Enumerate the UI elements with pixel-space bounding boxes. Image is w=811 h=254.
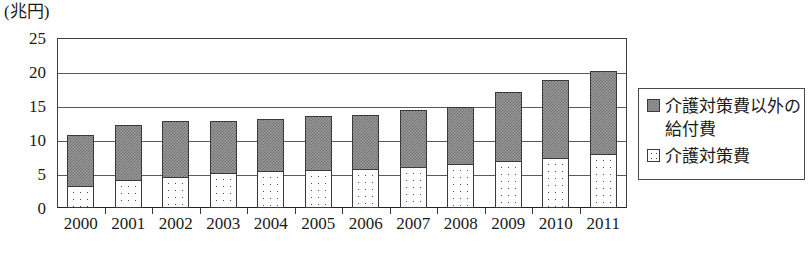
dotted-swatch-icon <box>647 149 660 162</box>
bar-segment-other-benefits[interactable] <box>162 121 189 178</box>
x-tick-label: 2010 <box>539 213 573 235</box>
bars-layer <box>57 38 627 208</box>
y-tick-label: 5 <box>38 166 47 183</box>
x-tick-label: 2009 <box>491 213 525 235</box>
y-tick-label: 15 <box>29 98 46 115</box>
legend-item-care-measures[interactable]: 介護対策費 <box>647 145 750 168</box>
bar-segment-care-measures[interactable] <box>115 180 142 208</box>
x-tick-label: 2004 <box>254 213 288 235</box>
bar-segment-other-benefits[interactable] <box>495 92 522 162</box>
gray-checker-swatch-icon <box>647 99 660 112</box>
x-tick-label: 2006 <box>349 213 383 235</box>
x-tick-label: 2005 <box>301 213 335 235</box>
y-tick-label: 20 <box>29 64 46 81</box>
y-tick-label: 10 <box>29 132 46 149</box>
bar-segment-care-measures[interactable] <box>590 154 617 208</box>
bar-segment-other-benefits[interactable] <box>590 71 617 156</box>
bar-segment-other-benefits[interactable] <box>447 107 474 165</box>
bar-segment-care-measures[interactable] <box>447 164 474 208</box>
bar-segment-other-benefits[interactable] <box>352 115 379 170</box>
bar-segment-care-measures[interactable] <box>67 186 94 208</box>
legend-item-label: 介護対策費以外の給付費 <box>665 95 804 141</box>
bar-segment-other-benefits[interactable] <box>210 121 237 174</box>
x-tick-label: 2007 <box>396 213 430 235</box>
legend-item-label: 介護対策費 <box>665 145 750 168</box>
bar-segment-other-benefits[interactable] <box>115 125 142 181</box>
bar-segment-other-benefits[interactable] <box>400 110 427 167</box>
bar-segment-care-measures[interactable] <box>257 171 284 208</box>
x-tick-label: 2002 <box>159 213 193 235</box>
x-tick-label: 2008 <box>444 213 478 235</box>
bar-segment-care-measures[interactable] <box>400 167 427 208</box>
bar-segment-other-benefits[interactable] <box>257 119 284 172</box>
x-tick-label: 2000 <box>64 213 98 235</box>
bar-segment-care-measures[interactable] <box>305 170 332 208</box>
x-tick-label: 2003 <box>206 213 240 235</box>
y-tick-label: 0 <box>38 200 47 217</box>
legend-item-other-benefits[interactable]: 介護対策費以外の給付費 <box>647 95 804 141</box>
bar-segment-other-benefits[interactable] <box>305 116 332 171</box>
y-axis-unit-label: (兆円) <box>4 2 49 22</box>
y-axis-labels: 0510152025 <box>0 38 52 208</box>
bar-segment-care-measures[interactable] <box>210 173 237 208</box>
y-tick-label: 25 <box>29 30 46 47</box>
x-tick-label: 2011 <box>587 213 620 235</box>
x-tick-label: 2001 <box>111 213 145 235</box>
bar-segment-care-measures[interactable] <box>352 169 379 208</box>
bar-segment-other-benefits[interactable] <box>542 80 569 159</box>
legend: 介護対策費以外の給付費 介護対策費 <box>638 88 805 180</box>
x-axis-labels: 2000200120022003200420052006200720082009… <box>57 213 627 239</box>
bar-segment-care-measures[interactable] <box>162 177 189 208</box>
bar-segment-care-measures[interactable] <box>542 158 569 208</box>
bar-segment-care-measures[interactable] <box>495 161 522 208</box>
bar-segment-other-benefits[interactable] <box>67 135 94 187</box>
